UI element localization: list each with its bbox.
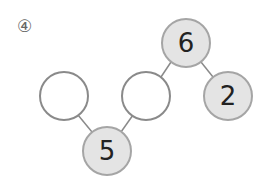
node-middle-empty[interactable]: [122, 72, 170, 120]
node-bottom-value: 5: [99, 136, 116, 166]
edge-bottom-middle: [121, 115, 133, 132]
edge-top-right: [201, 62, 213, 77]
number-bond-diagram: 6 2 5: [0, 0, 262, 179]
node-bottom: 5: [83, 127, 131, 175]
node-right-value: 2: [220, 81, 237, 111]
node-top: 6: [162, 19, 210, 67]
node-left-empty[interactable]: [40, 72, 88, 120]
edge-bottom-left: [78, 115, 92, 132]
node-top-value: 6: [178, 28, 195, 58]
edge-top-middle: [161, 62, 171, 77]
node-right: 2: [204, 72, 252, 120]
